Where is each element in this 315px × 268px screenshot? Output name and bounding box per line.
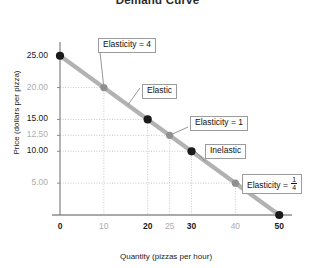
callout-label-elasticity-1: Elasticity = 1 — [195, 117, 243, 127]
plot-svg — [52, 30, 296, 233]
x-tick-label-50: 50 — [262, 221, 296, 231]
chart-title: Demand Curve — [0, 0, 315, 6]
fraction-denominator: 4 — [291, 184, 297, 191]
leader-line-elasticity-4 — [100, 52, 104, 88]
x-tick-label-10: 10 — [87, 221, 121, 231]
x-tick-label-0: 0 — [43, 221, 77, 231]
fraction-numerator: 1 — [291, 176, 297, 184]
callout-fraction-elasticity-qtr: 14 — [291, 176, 297, 191]
data-point-0-25 — [56, 52, 64, 60]
data-point-50-0 — [275, 211, 283, 219]
y-tick-label-5_00: 5.00 — [0, 177, 48, 187]
x-tick-label-40: 40 — [218, 221, 252, 231]
callout-elasticity-1: Elasticity = 1 — [190, 116, 248, 131]
plot-area — [52, 30, 296, 233]
callout-elasticity-4: Elasticity = 4 — [98, 38, 156, 53]
data-point-30-10 — [187, 147, 195, 155]
callout-label-elasticity-qtr: Elasticity = — [247, 180, 290, 190]
data-point-40-5 — [232, 180, 239, 187]
demand-curve-chart: Demand Curve Price (dollars per pizza) Q… — [0, 0, 315, 268]
y-tick-label-15_00: 15.00 — [0, 113, 48, 123]
y-tick-label-25_00: 25.00 — [0, 50, 48, 60]
y-tick-label-12_50: 12.50 — [0, 129, 48, 139]
data-point-25-12_5 — [166, 132, 173, 139]
callout-elastic: Elastic — [142, 84, 177, 99]
data-point-20-15 — [144, 115, 152, 123]
callout-elasticity-qtr: Elasticity = 14 — [242, 174, 302, 194]
leader-line-elastic — [128, 88, 140, 105]
y-tick-label-20_00: 20.00 — [0, 82, 48, 92]
callout-inelastic: Inelastic — [205, 144, 246, 159]
x-axis-title: Quantity (pizzas per hour) — [120, 252, 212, 261]
x-tick-label-30: 30 — [175, 221, 209, 231]
callout-label-elasticity-4: Elasticity = 4 — [103, 39, 151, 49]
callout-label-elastic: Elastic — [147, 85, 172, 95]
y-tick-label-10_00: 10.00 — [0, 145, 48, 155]
callout-label-inelastic: Inelastic — [210, 145, 241, 155]
data-point-10-20 — [100, 84, 107, 91]
